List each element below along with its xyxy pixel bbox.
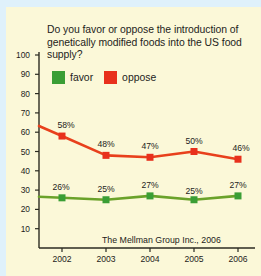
data-point-label: 26% (41, 183, 81, 192)
data-point-label: 27% (130, 181, 170, 190)
y-axis-tick-label: 80 (8, 90, 30, 98)
data-point-label: 46% (221, 144, 261, 153)
series-marker-favor (235, 192, 242, 199)
data-point-label: 58% (46, 121, 86, 130)
data-point-label: 25% (174, 187, 214, 196)
series-marker-oppose (235, 156, 242, 163)
y-axis-tick-label: 20 (8, 205, 30, 213)
chart-card: Do you favor or oppose the introduction … (6, 7, 261, 276)
y-axis-tick-label: 10 (8, 225, 30, 233)
y-axis-tick-label: 60 (8, 128, 30, 136)
data-point-label: 27% (218, 181, 258, 190)
chart-source-note: The Mellman Group Inc., 2006 (102, 235, 221, 245)
data-point-label: 50% (174, 137, 214, 146)
series-marker-favor (59, 194, 66, 201)
data-point-label: 25% (86, 185, 126, 194)
y-axis-tick-label: 50 (8, 148, 30, 156)
series-marker-favor (103, 196, 110, 203)
series-marker-favor (147, 192, 154, 199)
y-axis-tick-label: 30 (8, 186, 30, 194)
x-axis-tick-label: 2002 (42, 255, 82, 264)
series-marker-favor (191, 196, 198, 203)
series-marker-oppose (191, 148, 198, 155)
data-point-label: 47% (130, 142, 170, 151)
series-marker-oppose (147, 154, 154, 161)
y-axis-tick-label: 40 (8, 167, 30, 175)
x-axis-tick-label: 2003 (86, 255, 126, 264)
x-axis-tick-label: 2006 (218, 255, 258, 264)
series-line-favor (39, 196, 238, 200)
series-marker-oppose (103, 152, 110, 159)
y-axis-tick-label: 90 (8, 70, 30, 78)
x-axis-tick-label: 2004 (130, 255, 170, 264)
series-marker-oppose (59, 133, 66, 140)
x-axis-tick-label: 2005 (174, 255, 214, 264)
y-axis-tick-label: 100 (8, 51, 30, 59)
y-axis-tick-label: 70 (8, 109, 30, 117)
data-point-label: 48% (86, 140, 126, 149)
